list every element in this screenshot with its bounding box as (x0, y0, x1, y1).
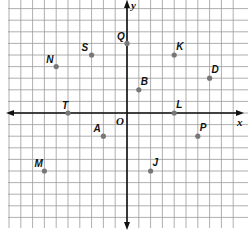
point-label: Q (117, 31, 125, 42)
point-marker (148, 168, 153, 173)
point-label: B (141, 76, 148, 87)
point-marker (101, 134, 106, 139)
point-label: K (176, 41, 184, 52)
point-marker (54, 64, 59, 69)
point-label: S (82, 42, 89, 53)
point-marker (65, 110, 70, 115)
x-axis-left-arrow-icon (6, 110, 14, 116)
point-label: D (212, 64, 219, 75)
point-label: M (34, 158, 43, 169)
y-axis-label: y (129, 0, 136, 11)
point-marker (195, 134, 200, 139)
origin-label: O (116, 115, 124, 127)
point-marker (172, 52, 177, 57)
point-marker (172, 110, 177, 115)
axes: x y O (6, 0, 244, 230)
point-marker (124, 41, 129, 46)
x-axis-label: x (236, 116, 243, 128)
point-label: A (92, 123, 100, 134)
point-label: L (176, 99, 182, 110)
point-marker (207, 76, 212, 81)
point-marker (89, 52, 94, 57)
grid-lines (8, 0, 248, 228)
point-label: T (62, 100, 69, 111)
point-label: P (200, 122, 207, 133)
point-label: N (46, 54, 54, 65)
coordinate-plane: x y O QSKNDBTLAPJM (0, 0, 248, 248)
point-label: J (153, 157, 159, 168)
y-axis-up-arrow-icon (124, 0, 130, 8)
y-axis-down-arrow-icon (124, 222, 130, 230)
point-marker (42, 168, 47, 173)
point-marker (136, 87, 141, 92)
